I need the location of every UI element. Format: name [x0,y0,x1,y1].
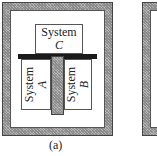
system-c-letter: C [55,39,63,52]
panel-a-caption: (a) [49,138,62,153]
system-c-box: System C [35,24,83,54]
enclosure-interior-b [150,10,157,128]
system-b-letter: B [78,67,91,102]
system-b-box: System B [64,59,92,110]
system-a-label: System A [23,67,48,102]
system-a-letter: A [36,67,49,102]
system-a-box: System A [21,59,51,110]
system-b-label: System B [65,67,90,102]
adiabatic-partition [51,56,64,115]
